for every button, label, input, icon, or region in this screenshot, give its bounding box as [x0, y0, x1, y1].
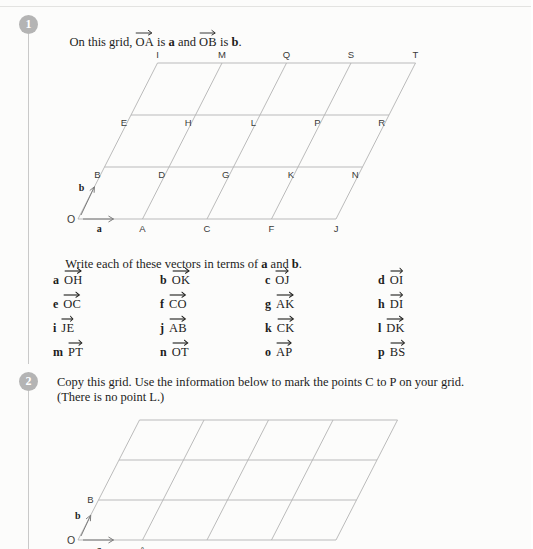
origin-point-label: O	[67, 534, 75, 546]
grid-line-col-3	[272, 420, 334, 540]
grid2-point-label-B: B	[87, 494, 93, 505]
grid-line-col-1	[143, 420, 205, 540]
grid-line-col-2	[207, 420, 269, 540]
vector-grid-blank: abOAB	[0, 0, 533, 549]
vector-b-label: b	[75, 510, 81, 521]
grid-line-col-4	[336, 420, 398, 540]
vector-a-label: a	[97, 544, 102, 549]
worksheet-page: 1 On this grid, OA is a and OB is b. abO…	[0, 0, 533, 549]
grid2-point-label-A: A	[139, 544, 146, 549]
vector-b-arrow-shaft	[81, 515, 91, 536]
